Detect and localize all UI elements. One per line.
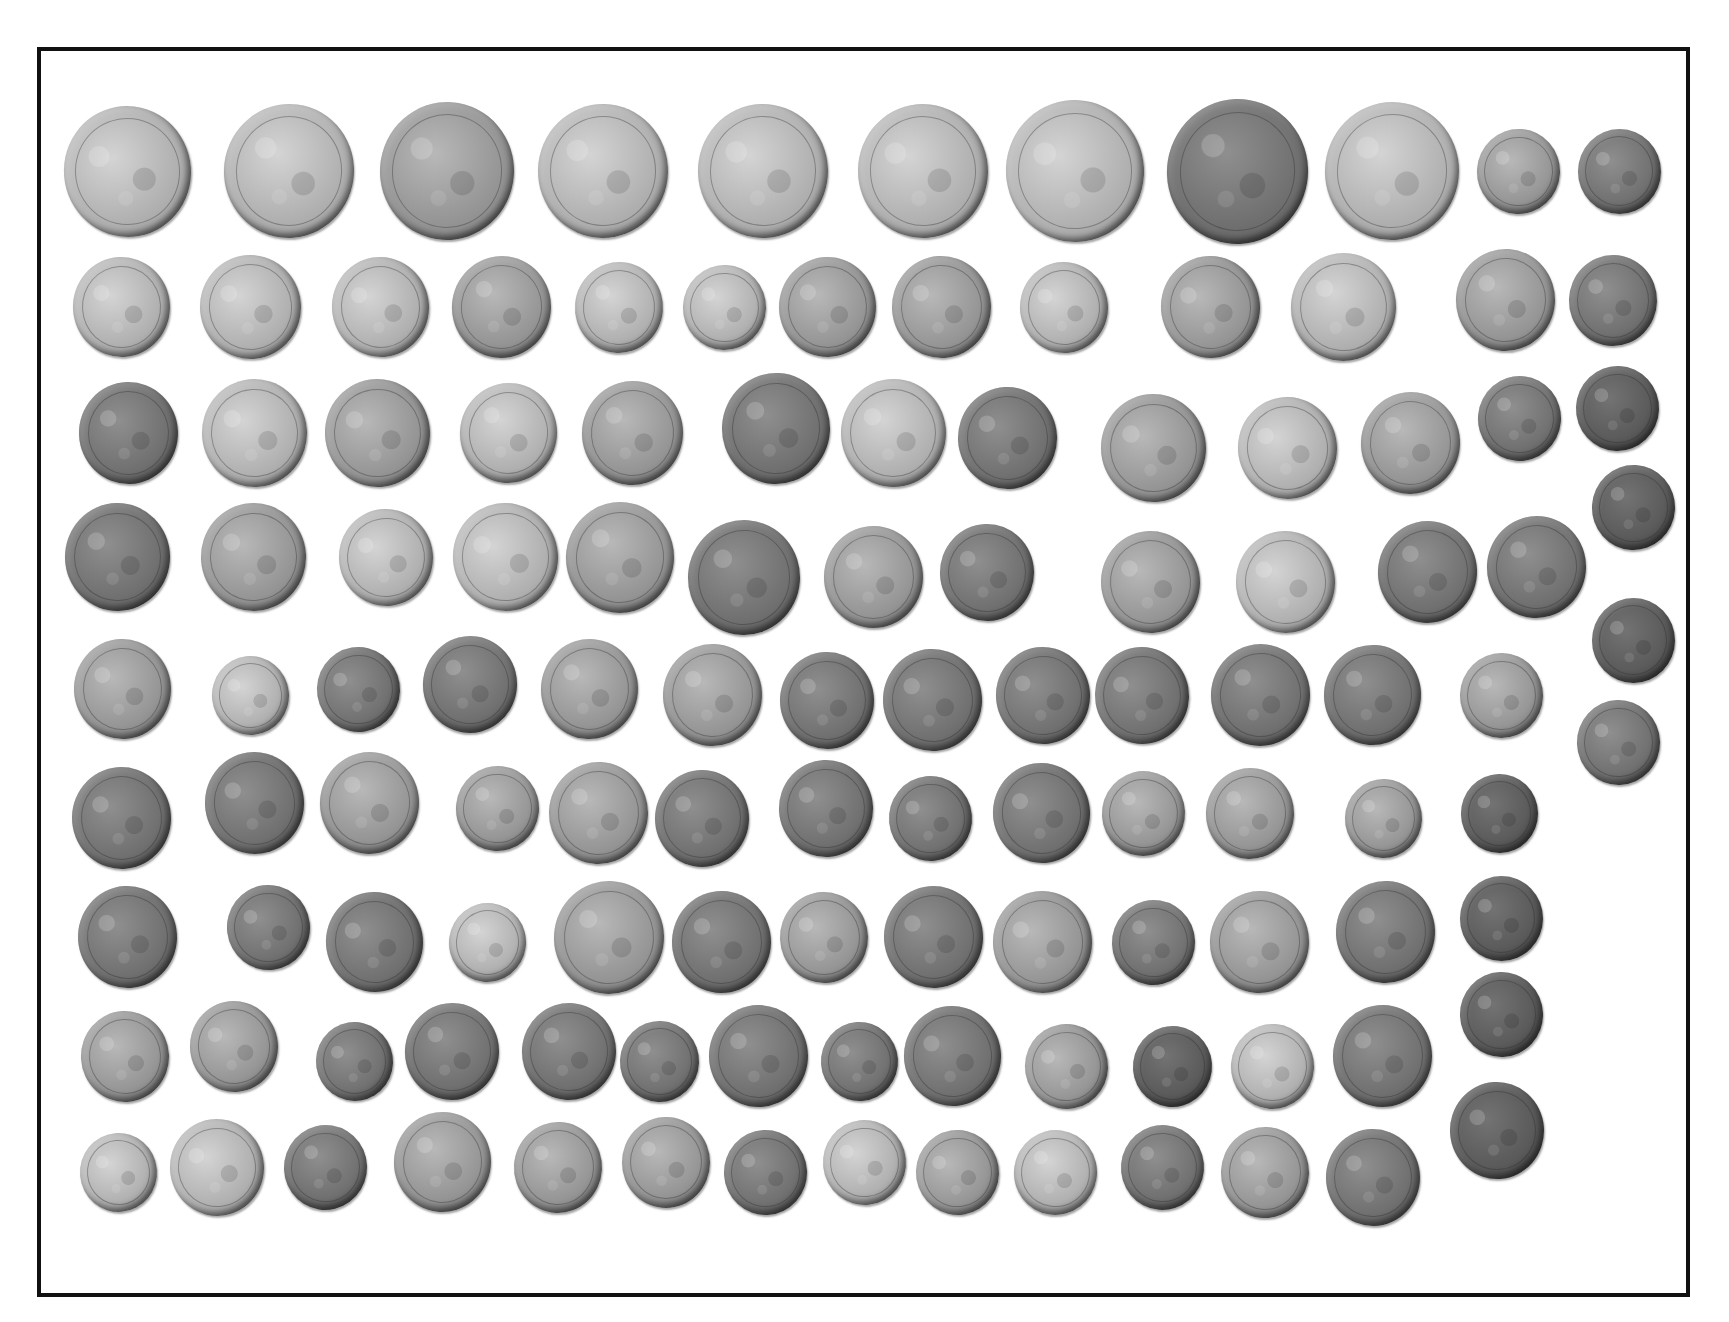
coin [655,770,749,867]
coin [823,525,924,629]
coin [1459,652,1543,738]
coin [1460,773,1538,853]
coin [841,379,946,487]
coin [622,1117,710,1208]
coin [1578,129,1661,214]
coin [1332,1004,1433,1108]
coin [1460,876,1543,961]
coin [778,256,877,358]
coin [1592,598,1675,683]
coin [671,890,772,994]
coin [1568,254,1658,347]
